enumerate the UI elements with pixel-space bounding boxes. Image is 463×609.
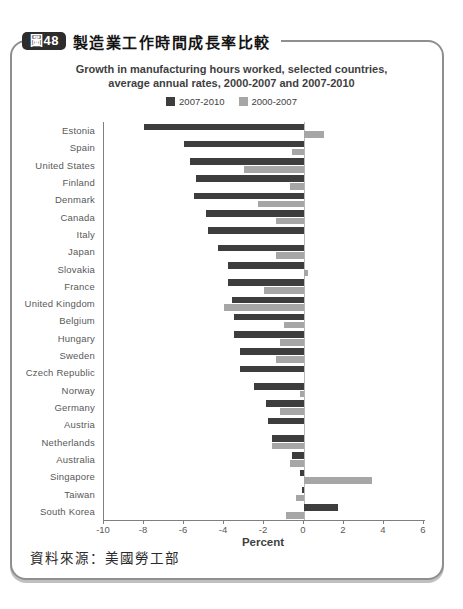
x-tick-label: -10 xyxy=(88,524,118,535)
x-tick-label: -6 xyxy=(168,524,198,535)
x-tick-label: -8 xyxy=(128,524,158,535)
figure-badge-label: 圖48 xyxy=(30,33,59,48)
figure-header: 圖48 製造業工作時間成長率比較 xyxy=(22,30,281,52)
x-axis-ticks: -10-8-6-4-20246 xyxy=(0,0,463,609)
x-tick-label: 2 xyxy=(328,524,358,535)
figure-page: 圖48 製造業工作時間成長率比較 Growth in manufacturing… xyxy=(0,0,463,609)
x-tick-label: -4 xyxy=(208,524,238,535)
source-note: 資料來源：美國勞工部 xyxy=(30,547,180,567)
figure-number-badge: 圖48 xyxy=(22,32,66,50)
x-tick-label: 6 xyxy=(408,524,438,535)
x-tick-label: 0 xyxy=(288,524,318,535)
x-tick-label: -2 xyxy=(248,524,278,535)
figure-title: 製造業工作時間成長率比較 xyxy=(73,31,271,52)
x-tick-label: 4 xyxy=(368,524,398,535)
